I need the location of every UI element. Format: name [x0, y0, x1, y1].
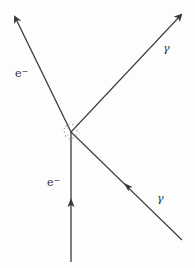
- compton-scattering-diagram: e− γ e− γ: [0, 0, 195, 268]
- outgoing-photon-track: [71, 15, 181, 132]
- incoming-electron-label: e−: [47, 177, 60, 188]
- label-superscript: −: [54, 176, 61, 185]
- incoming-photon-track: [71, 132, 182, 240]
- diagram-svg: [0, 0, 195, 268]
- incoming-photon-label: γ: [157, 193, 164, 204]
- outgoing-electron-label: e−: [15, 68, 28, 79]
- outgoing-photon-label: γ: [163, 43, 170, 54]
- label-text: γ: [163, 42, 170, 55]
- incoming-electron-track: [68, 132, 75, 262]
- label-text: γ: [157, 192, 164, 205]
- label-superscript: −: [22, 67, 29, 76]
